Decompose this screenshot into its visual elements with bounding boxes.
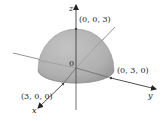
point-y-label: (0, 3, 0) [117, 66, 149, 75]
origin-label: 0 [69, 59, 74, 68]
point-z-top-label: (0, 0, 3) [79, 15, 111, 24]
y-axis-front [111, 78, 156, 89]
point-z-top [75, 28, 77, 30]
hemisphere-diagram: z y x (0, 0, 3) (0, 3, 0) (3, 0, 0) 0 [0, 0, 166, 121]
point-x [62, 83, 64, 85]
x-axis-label: x [32, 106, 37, 115]
point-x-label: (3, 0, 0) [21, 92, 53, 101]
y-axis-label: y [147, 91, 153, 100]
z-axis-label: z [68, 4, 74, 13]
point-y [110, 77, 112, 79]
